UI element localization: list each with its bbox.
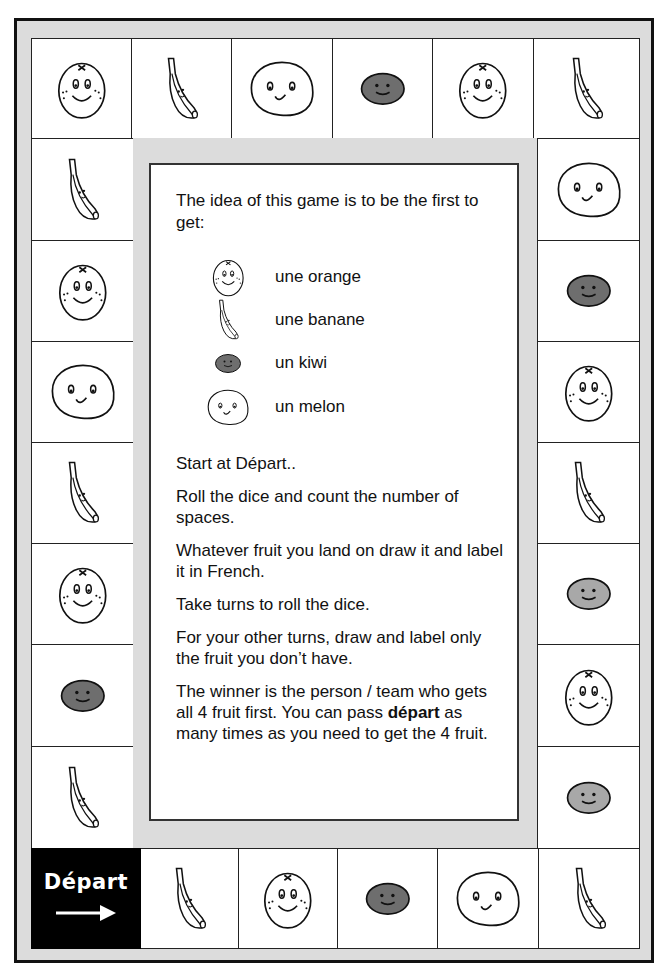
kiwi-icon <box>565 576 613 612</box>
orange-icon <box>453 55 513 123</box>
board-cell-right-1[interactable] <box>537 138 640 241</box>
orange-icon <box>53 560 113 628</box>
orange-icon <box>53 257 113 325</box>
banana-icon <box>568 865 611 933</box>
orange-icon <box>52 55 112 123</box>
kiwi-icon <box>364 881 412 917</box>
legend-item-banana: une banane <box>201 300 365 340</box>
banana-icon <box>160 55 203 123</box>
melon-icon <box>454 869 522 929</box>
board-cell-left-2[interactable] <box>31 240 134 342</box>
board-cell-top-6[interactable] <box>533 38 640 139</box>
board-cell-left-7[interactable] <box>31 746 134 849</box>
banana-icon <box>61 156 104 224</box>
board-cell-right-2[interactable] <box>537 240 640 342</box>
page-corner-glyph <box>590 0 650 6</box>
board-cell-top-1[interactable] <box>31 38 132 139</box>
board-cell-left-6[interactable] <box>31 644 134 747</box>
board-cell-right-4[interactable] <box>537 442 640 544</box>
melon-icon <box>49 362 117 422</box>
depart-bold: départ <box>388 703 440 722</box>
legend-item-melon: un melon <box>201 387 345 427</box>
banana-icon <box>168 865 211 933</box>
board-cell-right-5[interactable] <box>537 543 640 645</box>
kiwi-icon <box>59 678 107 714</box>
rules-list: Start at Départ.. Roll the dice and coun… <box>176 453 506 756</box>
kiwi-icon <box>565 273 613 309</box>
depart-start-cell[interactable]: Départ <box>31 848 141 949</box>
board-cell-right-6[interactable] <box>537 644 640 747</box>
banana-icon <box>201 298 255 342</box>
board-cell-bottom-2[interactable] <box>238 848 338 949</box>
kiwi-icon <box>565 780 613 816</box>
melon-icon <box>201 388 255 427</box>
melon-icon <box>555 160 623 220</box>
depart-label: Départ <box>44 870 128 894</box>
instructions-intro: The idea of this game is to be the first… <box>176 190 496 234</box>
board-cell-top-5[interactable] <box>432 38 534 139</box>
legend-item-kiwi: un kiwi <box>201 343 327 383</box>
melon-icon <box>248 59 316 119</box>
board-cell-left-1[interactable] <box>31 138 134 241</box>
orange-icon <box>559 358 619 426</box>
rule-winner: The winner is the person / team who gets… <box>176 681 506 744</box>
arrow-right-icon <box>54 904 118 922</box>
banana-icon <box>61 764 104 832</box>
legend-item-orange: une orange <box>201 257 361 297</box>
kiwi-icon <box>359 71 407 107</box>
board-cell-top-2[interactable] <box>131 38 232 139</box>
board-cell-right-7[interactable] <box>537 746 640 849</box>
legend-label: une orange <box>275 267 361 287</box>
board-cell-right-3[interactable] <box>537 341 640 443</box>
board-cell-top-3[interactable] <box>231 38 333 139</box>
board-cell-left-5[interactable] <box>31 543 134 645</box>
rule-start: Start at Départ.. <box>176 453 506 474</box>
board-cell-bottom-3[interactable] <box>337 848 438 949</box>
legend-label: un kiwi <box>275 353 327 373</box>
board-cell-left-3[interactable] <box>31 341 134 443</box>
board-cell-bottom-1[interactable] <box>140 848 239 949</box>
banana-icon <box>567 459 610 527</box>
board-cell-bottom-5[interactable] <box>538 848 640 949</box>
banana-icon <box>565 55 608 123</box>
instructions-panel: The idea of this game is to be the first… <box>149 163 519 821</box>
rule-turns: Take turns to roll the dice. <box>176 594 506 615</box>
rule-other-turns: For your other turns, draw and label onl… <box>176 627 506 669</box>
orange-icon <box>258 865 318 933</box>
rule-roll: Roll the dice and count the number of sp… <box>176 486 506 528</box>
rule-draw: Whatever fruit you land on draw it and l… <box>176 540 506 582</box>
kiwi-icon <box>201 353 255 374</box>
legend-label: un melon <box>275 397 345 417</box>
orange-icon <box>559 662 619 730</box>
board-cell-bottom-4[interactable] <box>437 848 539 949</box>
banana-icon <box>61 459 104 527</box>
legend-label: une banane <box>275 310 365 330</box>
board-cell-top-4[interactable] <box>332 38 433 139</box>
orange-icon <box>201 255 255 299</box>
board-cell-left-4[interactable] <box>31 442 134 544</box>
